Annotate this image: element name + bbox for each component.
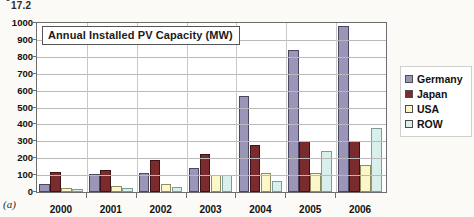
gridline [37, 124, 386, 125]
x-axis-tick-label: 2004 [249, 204, 271, 215]
legend-swatch-icon [405, 90, 413, 98]
y-axis-tick-label: 800 [0, 50, 33, 61]
y-axis-tick-label: 300 [0, 135, 33, 146]
bar-japan-2004 [250, 145, 261, 192]
category-separator [286, 23, 287, 192]
stray-mark-icon [6, 0, 10, 1]
x-axis-tick [136, 193, 137, 198]
x-axis-labels: 2000200120022003200420052006 [36, 204, 387, 217]
category-separator [137, 23, 138, 192]
bar-usa-2005 [310, 173, 321, 192]
chart-title: Annual Installed PV Capacity (MW) [42, 26, 240, 45]
legend-swatch-icon [405, 105, 413, 113]
gridline [37, 175, 386, 176]
legend-item-row[interactable]: ROW [405, 116, 468, 131]
y-axis-tick [31, 107, 36, 108]
y-axis-tick [31, 73, 36, 74]
legend-item-usa[interactable]: USA [405, 101, 468, 116]
x-axis-tick [235, 193, 236, 198]
y-axis-tick [31, 191, 36, 192]
bar-usa-2003 [211, 175, 222, 192]
bar-row-2001 [122, 188, 133, 192]
bar-japan-2005 [299, 141, 310, 192]
gridline [37, 158, 386, 159]
y-axis-tick [31, 174, 36, 175]
x-axis-tick-label: 2000 [50, 204, 72, 215]
x-axis-tick [285, 193, 286, 198]
chart-legend: GermanyJapanUSAROW [400, 66, 472, 137]
y-axis-tick-label: 900 [0, 33, 33, 44]
category-separator [236, 23, 237, 192]
gridline [37, 91, 386, 92]
x-axis-tick-label: 2005 [299, 204, 321, 215]
bar-japan-2006 [349, 141, 360, 192]
bar-germany-2005 [288, 50, 299, 192]
stray-text-fragment: 17.2 [6, 0, 31, 11]
legend-swatch-icon [405, 120, 413, 128]
legend-swatch-icon [405, 75, 413, 83]
bar-germany-2000 [39, 184, 50, 192]
y-axis-tick [31, 56, 36, 57]
y-axis-tick-label: 400 [0, 118, 33, 129]
y-axis-tick-label: 1000 [0, 17, 33, 28]
bar-usa-2006 [360, 165, 371, 192]
plot-area [36, 22, 387, 193]
legend-label: Germany [417, 73, 463, 85]
x-axis-tick-label: 2002 [150, 204, 172, 215]
y-axis-tick [31, 39, 36, 40]
x-axis-tick [186, 193, 187, 198]
gridline [37, 108, 386, 109]
bar-germany-2004 [239, 96, 250, 192]
legend-item-germany[interactable]: Germany [405, 71, 468, 86]
gridline [37, 57, 386, 58]
y-axis-tick-label: 700 [0, 67, 33, 78]
y-axis-tick [31, 90, 36, 91]
x-axis-tick-label: 2003 [199, 204, 221, 215]
y-axis-tick-label: 600 [0, 84, 33, 95]
x-axis-tick-label: 2006 [349, 204, 371, 215]
bar-row-2004 [272, 181, 283, 192]
bar-germany-2001 [89, 174, 100, 192]
bar-row-2003 [222, 175, 233, 192]
bar-japan-2001 [100, 170, 111, 192]
bar-japan-2003 [200, 154, 211, 192]
bar-row-2006 [371, 128, 382, 192]
bar-usa-2002 [161, 184, 172, 192]
y-axis-tick-label: 200 [0, 152, 33, 163]
bar-row-2000 [72, 189, 83, 192]
legend-label: ROW [417, 118, 443, 130]
y-axis-tick [31, 123, 36, 124]
bar-row-2002 [172, 187, 183, 192]
category-separator [336, 23, 337, 192]
y-axis-tick [31, 140, 36, 141]
x-axis-tick [86, 193, 87, 198]
gridline [37, 141, 386, 142]
legend-item-japan[interactable]: Japan [405, 86, 468, 101]
bar-germany-2006 [338, 26, 349, 192]
y-axis-tick-label: 100 [0, 169, 33, 180]
legend-label: USA [417, 103, 439, 115]
bar-usa-2001 [111, 186, 122, 192]
legend-label: Japan [417, 88, 447, 100]
gridline [37, 74, 386, 75]
y-axis-tick [31, 22, 36, 23]
bar-usa-2004 [261, 173, 272, 192]
x-axis-tick-label: 2001 [100, 204, 122, 215]
y-axis-labels: 10009008007006005004003002001000 [0, 14, 33, 200]
stray-text-value: 17.2 [11, 0, 31, 11]
category-separator [87, 23, 88, 192]
bar-usa-2000 [61, 188, 72, 192]
y-axis-tick [31, 157, 36, 158]
y-axis-tick-label: 500 [0, 101, 33, 112]
bar-germany-2003 [189, 168, 200, 192]
bar-germany-2002 [139, 173, 150, 192]
category-separator [187, 23, 188, 192]
y-axis-tick-label: 0 [0, 186, 33, 197]
x-axis-tick [335, 193, 336, 198]
